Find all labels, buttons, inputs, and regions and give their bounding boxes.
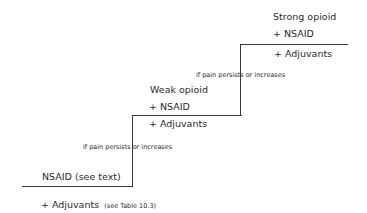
step-1-drug: NSAID (see text): [42, 171, 121, 182]
step-3-drug: Strong opioid: [273, 11, 336, 22]
step-2-riser: [240, 44, 241, 116]
step-1-tread: [22, 186, 133, 187]
step-1-adjuvant-note: (see Table 10.3): [104, 202, 156, 210]
step-2-drug: Weak opioid: [150, 84, 208, 95]
step-2-nsaid: + NSAID: [149, 101, 190, 112]
step-2-adjuvants: + Adjuvants: [149, 118, 207, 129]
step-1-adjuvant-label: + Adjuvants: [41, 199, 99, 210]
step-1-riser: [132, 115, 133, 187]
step-2-tread: [132, 115, 242, 116]
transition-2-label: if pain persists or increases: [196, 71, 285, 79]
step-3-nsaid: + NSAID: [273, 28, 314, 39]
step-1-adjuvants: + Adjuvants (see Table 10.3): [41, 193, 156, 212]
transition-1-label: if pain persists or increases: [83, 143, 172, 151]
step-3-tread: [240, 44, 348, 45]
step-3-adjuvants: + Adjuvants: [274, 48, 332, 59]
